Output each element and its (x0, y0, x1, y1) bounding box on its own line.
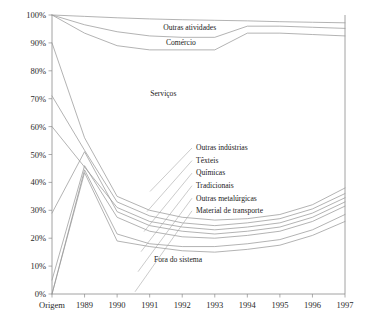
leader-line (141, 186, 192, 252)
x-tick-label: 1994 (239, 300, 257, 310)
x-tick-label: 1996 (304, 300, 321, 310)
y-tick-label: 10% (30, 261, 46, 271)
y-tick-label: 50% (30, 150, 46, 160)
x-axis-ticks (52, 294, 345, 298)
series-leader-label: Outras indústrias (196, 143, 248, 152)
x-tick-label: 1990 (109, 300, 126, 310)
series-line (52, 15, 345, 23)
y-tick-label: 80% (30, 66, 46, 76)
x-tick-label: 1995 (271, 300, 288, 310)
leader-line (150, 148, 192, 192)
data-series-group (52, 15, 345, 294)
y-axis-ticks (49, 15, 53, 294)
chart-container: Outras atividadesComércioServiçosFora do… (0, 0, 371, 324)
series-leader-label: Químicas (196, 168, 225, 177)
y-tick-label: 70% (30, 94, 46, 104)
y-tick-label: 0% (35, 289, 46, 299)
series-annotation-label: Outras atividades (163, 23, 216, 32)
leader-labels-group: Outras indústriasTêxteisQuímicasTradicio… (196, 143, 264, 215)
leader-line (147, 161, 192, 212)
x-tick-label: 1992 (174, 300, 191, 310)
y-tick-label: 20% (30, 233, 46, 243)
y-tick-label: 100% (26, 10, 46, 20)
y-tick-label: 40% (30, 177, 46, 187)
x-tick-labels-group: Origem1989199019911992199319941995199619… (39, 300, 353, 310)
y-tick-label: 30% (30, 205, 46, 215)
x-tick-label: 1997 (337, 300, 354, 310)
x-tick-label: Origem (39, 300, 65, 310)
series-annotation-label: Serviços (150, 89, 176, 98)
series-leader-label: Material de transporte (196, 206, 264, 215)
series-annotation-label: Comércio (166, 38, 196, 47)
y-tick-label: 90% (30, 38, 46, 48)
series-leader-label: Tradicionais (196, 181, 234, 190)
x-tick-label: 1991 (141, 300, 158, 310)
line-chart: Outras atividadesComércioServiçosFora do… (0, 0, 371, 324)
y-tick-labels-group: 0%10%20%30%40%50%60%70%80%90%100% (26, 10, 46, 299)
y-tick-label: 60% (30, 122, 46, 132)
series-leader-label: Têxteis (196, 156, 218, 165)
x-tick-label: 1993 (206, 300, 223, 310)
series-annotation-label: Fora do sistema (154, 255, 203, 264)
x-tick-label: 1989 (76, 300, 93, 310)
series-leader-label: Outras metalúrgicas (196, 194, 257, 203)
leader-lines-group (135, 148, 192, 292)
